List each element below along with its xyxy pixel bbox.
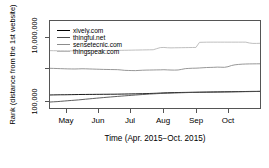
y-tick-label-100000: 100,000: [30, 78, 39, 126]
x-tick-mark-may: [66, 109, 67, 113]
legend-key-xively: [57, 30, 70, 31]
x-tick-mark-aug: [163, 109, 164, 113]
y-axis-title: Rank (distance from the 1st website): [8, 0, 17, 135]
x-tick-label-aug: Aug: [148, 116, 178, 125]
legend-item-sensetecnic: sensetecnic.com: [57, 41, 122, 48]
x-tick-mark-jun: [98, 109, 99, 113]
x-axis-title: Time (Apr. 2015−Oct. 2015): [49, 134, 261, 143]
x-tick-label-may: May: [51, 116, 81, 125]
y-tick-label-10000000: 10,000,000: [30, 8, 39, 64]
legend-item-thingspeak: thingspeak.com: [57, 48, 122, 55]
x-tick-mark-sep: [196, 109, 197, 113]
x-tick-label-jun: Jun: [83, 116, 113, 125]
x-tick-label-jul: Jul: [115, 116, 145, 125]
series-line-sensetecnic: [50, 64, 260, 71]
legend-label-thingful: thingful.net: [73, 34, 105, 41]
legend-item-xively: xively.com: [57, 27, 122, 34]
chart-legend: xively.com thingful.net sensetecnic.com …: [57, 27, 122, 55]
legend-label-thingspeak: thingspeak.com: [73, 48, 119, 55]
legend-item-thingful: thingful.net: [57, 34, 122, 41]
x-tick-label-oct: Oct: [213, 116, 243, 125]
legend-key-thingful: [57, 37, 70, 38]
legend-label-sensetecnic: sensetecnic.com: [73, 41, 122, 48]
legend-label-xively: xively.com: [73, 27, 103, 34]
x-tick-mark-oct: [228, 109, 229, 113]
legend-key-sensetecnic: [57, 44, 70, 45]
chart-container: Rank (distance from the 1st website) 10,…: [0, 0, 269, 168]
x-tick-mark-jul: [130, 109, 131, 113]
legend-key-thingspeak: [57, 51, 70, 52]
x-tick-label-sep: Sep: [181, 116, 211, 125]
